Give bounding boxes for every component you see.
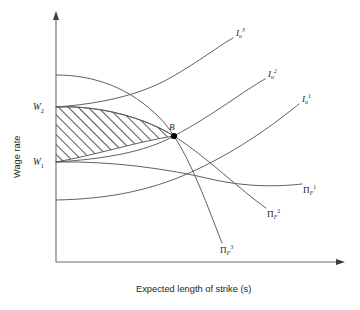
figure-container: B W2 W1 Iu3 Iu2 Iu1 ΠF1 ΠF2 ΠF3 Wage rat… [0,0,360,310]
y-axis-title: Wage rate [12,135,22,178]
curve-label-union-indifference-2: Iu2 [267,68,277,80]
curve-label-firm-isoprofit-3: ΠF3 [220,244,233,256]
y-tick-label-w1: W1 [33,157,44,169]
curve-label-firm-isoprofit-1: ΠF1 [303,184,316,196]
curve-label-union-indifference-1: Iu1 [301,93,311,105]
curve-union-indifference-3 [56,38,233,107]
curve-firm-isoprofit-3 [56,75,222,243]
curve-label-union-indifference-3: Iu3 [235,27,245,39]
curve-firm-isoprofit-1 [56,162,302,186]
x-axis [56,259,345,265]
settlement-point-b-dot [171,133,177,139]
curve-label-firm-isoprofit-2: ΠF2 [267,208,280,220]
settlement-point-b-label: B [169,122,175,132]
diagram-canvas: B W2 W1 Iu3 Iu2 Iu1 ΠF1 ΠF2 ΠF3 Wage rat… [0,0,360,310]
x-axis-title: Expected length of strike (s) [136,284,251,294]
y-tick-label-w2: W2 [33,102,44,114]
